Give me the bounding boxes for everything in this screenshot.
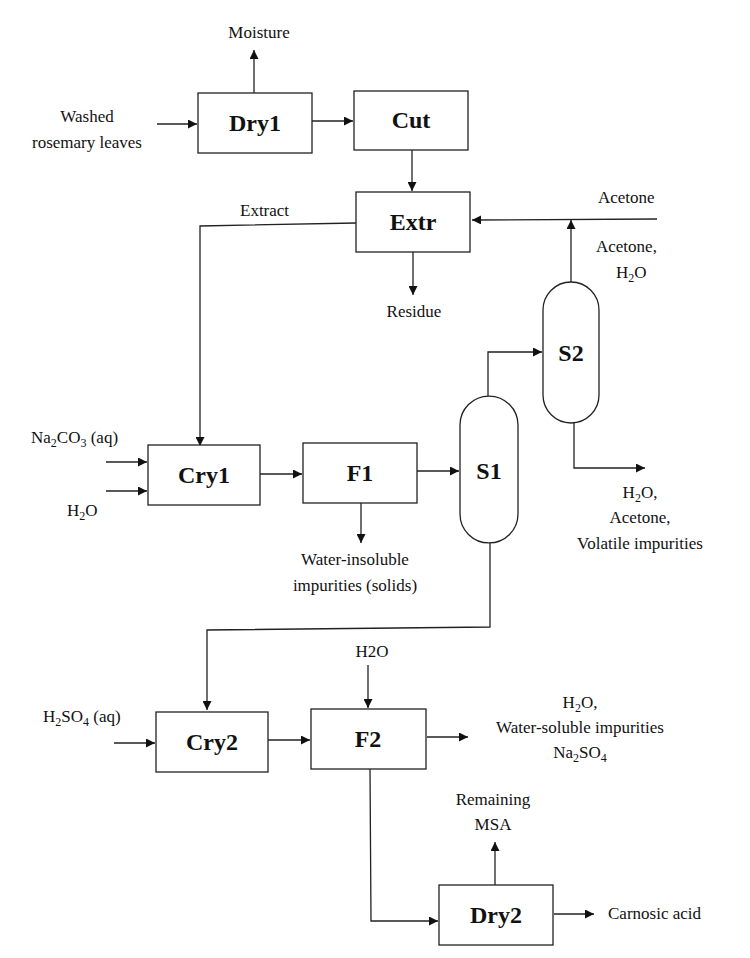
unit-s1-label: S1: [476, 458, 501, 484]
remaining-label-line2: MSA: [475, 815, 513, 834]
extract-to-cry1-line: [200, 223, 356, 446]
acetone-h2o-label-line1: Acetone,: [596, 237, 657, 256]
residue-label: Residue: [387, 302, 442, 321]
s2-bottom-arrow: [574, 423, 645, 468]
f2-out-label-line1: H2O,: [563, 693, 598, 715]
unit-dry2: Dry2: [439, 885, 553, 945]
f2-out-label-line3: Na2SO4: [553, 743, 607, 765]
unit-dry1-label: Dry1: [229, 110, 281, 136]
unit-cry1: Cry1: [148, 445, 260, 505]
h2o-f2-label: H2O: [355, 642, 388, 661]
unit-cut-label: Cut: [392, 107, 431, 133]
s2-bottom-label-line1: H2O,: [623, 483, 658, 505]
unit-s2-label: S2: [558, 340, 583, 366]
s1-to-s2-arrow: [488, 352, 542, 396]
acetone-feed-arrow: [472, 219, 657, 220]
unit-cry2-label: Cry2: [186, 729, 238, 755]
unit-cry1-label: Cry1: [178, 462, 230, 488]
moisture-label: Moisture: [228, 23, 289, 42]
unit-f2: F2: [311, 709, 426, 769]
insoluble-label-line2: impurities (solids): [293, 576, 417, 595]
remaining-label-line1: Remaining: [456, 790, 531, 809]
unit-s1: S1: [460, 396, 518, 543]
h2o-cry1-label: H2O: [67, 501, 98, 523]
unit-extr: Extr: [356, 192, 470, 252]
s2-bottom-label-line3: Volatile impurities: [577, 534, 703, 553]
carnosic-acid-label: Carnosic acid: [608, 904, 701, 923]
washed-label-line1: Washed: [60, 107, 114, 126]
f2-out-label-line2: Water-soluble impurities: [496, 718, 664, 737]
extract-label: Extract: [240, 201, 289, 220]
unit-f1: F1: [303, 443, 417, 503]
h2so4-label: H2SO4 (aq): [43, 707, 121, 729]
unit-cut: Cut: [354, 91, 468, 150]
unit-s2: S2: [543, 282, 599, 423]
insoluble-label-line1: Water-insoluble: [301, 550, 409, 569]
unit-dry1: Dry1: [198, 93, 312, 153]
acetone-h2o-label-line2: H2O: [616, 263, 647, 285]
f2-to-dry2-line: [370, 769, 438, 921]
s2-bottom-label-line2: Acetone,: [610, 508, 671, 527]
unit-extr-label: Extr: [390, 209, 437, 235]
unit-f2-label: F2: [355, 726, 382, 752]
acetone-feed-label: Acetone: [598, 188, 655, 207]
unit-cry2: Cry2: [156, 712, 268, 772]
na2co3-label: Na2CO3 (aq): [31, 428, 118, 450]
unit-f1-label: F1: [347, 460, 374, 486]
washed-label-line2: rosemary leaves: [32, 133, 142, 152]
process-flow-diagram: Dry1 Moisture Washed rosemary leaves Cut…: [0, 0, 750, 958]
unit-dry2-label: Dry2: [470, 902, 522, 928]
